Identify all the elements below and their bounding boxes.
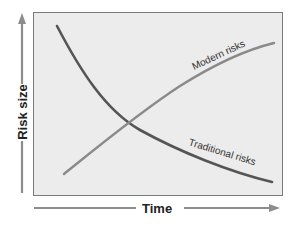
- risk-chart: Modern risks Traditional risks Risk size…: [0, 0, 293, 227]
- x-axis-label: Time: [142, 201, 172, 216]
- y-axis-arrowhead-icon: [18, 13, 26, 24]
- y-axis-label: Risk size: [15, 84, 30, 140]
- x-axis-arrowhead-icon: [269, 204, 280, 212]
